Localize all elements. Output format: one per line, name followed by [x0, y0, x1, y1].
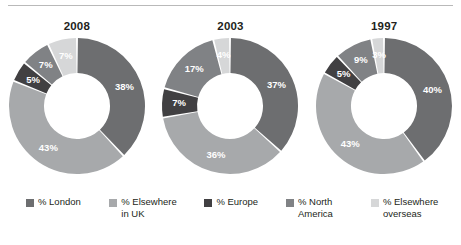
- legend-item-london: % London: [26, 196, 97, 208]
- donut-slice-2003-0: [231, 38, 299, 151]
- donut-slice-1997-1: [316, 74, 423, 174]
- slice-label-2008-4: 7%: [59, 50, 73, 61]
- slice-label-1997-1: 43%: [341, 138, 361, 149]
- chart-title-2008: 2008: [64, 20, 90, 32]
- donut-2008: 38%43%5%7%7%: [5, 34, 149, 178]
- chart-block-2003: 2003 37%36%7%17%4%: [154, 18, 307, 190]
- legend-label-london: % London: [38, 196, 81, 208]
- donut-svg-1997: 40%43%5%9%3%: [312, 34, 456, 178]
- slice-label-2003-0: 37%: [268, 79, 288, 90]
- donut-2003: 37%36%7%17%4%: [158, 34, 302, 178]
- slice-label-2003-3: 17%: [185, 63, 205, 74]
- legend-item-europe: % Europe: [204, 196, 274, 208]
- slice-label-2008-0: 38%: [115, 81, 135, 92]
- legend-swatch-icon: [204, 199, 212, 207]
- chart-title-1997: 1997: [371, 20, 397, 32]
- legend-item-north-america: % North America: [286, 196, 359, 219]
- slice-label-1997-3: 9%: [354, 54, 368, 65]
- donut-1997: 40%43%5%9%3%: [312, 34, 456, 178]
- legend-swatch-icon: [286, 199, 294, 207]
- slice-label-1997-4: 3%: [372, 49, 386, 60]
- chart-title-2003: 2003: [217, 20, 243, 32]
- top-divider: [8, 5, 453, 6]
- donut-svg-2008: 38%43%5%7%7%: [5, 34, 149, 178]
- slice-label-1997-2: 5%: [337, 68, 351, 79]
- legend-label-europe: % Europe: [216, 196, 258, 208]
- slice-label-2003-2: 7%: [173, 97, 187, 108]
- legend-label-elsewhere-in-uk: % Elsewhere in UK: [121, 196, 176, 219]
- legend-swatch-icon: [109, 199, 117, 207]
- slice-label-2003-1: 36%: [207, 149, 227, 160]
- legend-swatch-icon: [371, 199, 379, 207]
- donut-svg-2003: 37%36%7%17%4%: [158, 34, 302, 178]
- slice-label-2008-3: 7%: [39, 59, 53, 70]
- donut-chart-figure: 2008 38%43%5%7%7% 2003 37%36%7%17%4% 199…: [0, 0, 461, 245]
- legend-item-elsewhere-overseas: % Elsewhere overseas: [371, 196, 449, 219]
- legend-label-elsewhere-overseas: % Elsewhere overseas: [383, 196, 438, 219]
- legend-label-north-america: % North America: [298, 196, 333, 219]
- slice-label-1997-0: 40%: [423, 84, 443, 95]
- slice-label-2008-1: 43%: [39, 142, 59, 153]
- slice-label-2003-4: 4%: [217, 49, 231, 60]
- donut-slices-2008: [9, 38, 145, 174]
- legend-item-elsewhere-in-uk: % Elsewhere in UK: [109, 196, 192, 219]
- chart-block-1997: 1997 40%43%5%9%3%: [308, 18, 461, 190]
- chart-legend: % London % Elsewhere in UK % Europe % No…: [0, 196, 461, 240]
- slice-label-2008-2: 5%: [26, 74, 40, 85]
- chart-block-2008: 2008 38%43%5%7%7%: [0, 18, 153, 190]
- charts-row: 2008 38%43%5%7%7% 2003 37%36%7%17%4% 199…: [0, 18, 461, 190]
- legend-swatch-icon: [26, 199, 34, 207]
